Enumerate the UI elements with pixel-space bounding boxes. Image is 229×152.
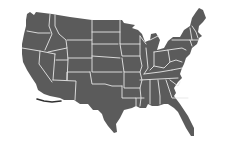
us-map bbox=[0, 0, 229, 152]
us-map-svg bbox=[0, 0, 229, 152]
coast-mark bbox=[37, 99, 61, 102]
